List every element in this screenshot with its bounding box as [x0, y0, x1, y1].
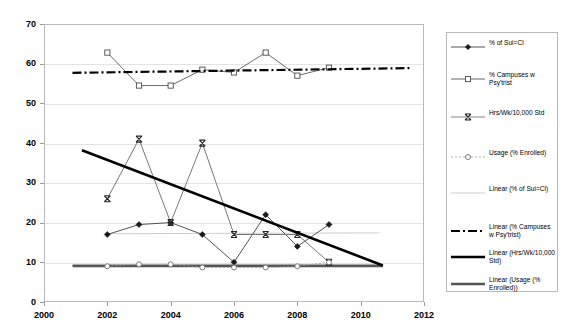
- data-point-marker: [104, 196, 110, 202]
- legend-key-dotted-open-circle-icon: [449, 149, 487, 161]
- data-point-marker: [105, 50, 110, 55]
- legend-label: Usage (% Enrolled): [487, 149, 546, 157]
- legend-item[interactable]: Usage (% Enrolled): [449, 149, 557, 161]
- legend-label: Linear (Usage (% Enrolled)): [487, 276, 557, 291]
- series-0: [104, 212, 332, 266]
- legend-key-thin-solid-icon: [449, 185, 487, 197]
- chart-legend: % of Sui=Cl% Campuses w Psy'tristHrs/Wk/…: [446, 32, 558, 292]
- legend-item[interactable]: % Campuses w Psy'trist: [449, 71, 557, 86]
- legend-label: Linear (% Campuses w Psy'trist): [487, 223, 557, 238]
- data-point-marker: [326, 222, 332, 228]
- data-point-marker: [168, 262, 173, 267]
- legend-label: % of Sui=Cl: [487, 39, 524, 47]
- legend-marker: [465, 44, 471, 50]
- data-point-marker: [200, 265, 205, 270]
- data-point-marker: [136, 136, 142, 142]
- trendline-segment: [107, 233, 379, 234]
- data-point-marker: [136, 222, 142, 228]
- legend-label: % Campuses w Psy'trist: [487, 71, 557, 86]
- data-point-marker: [263, 50, 268, 55]
- legend-item[interactable]: Linear (% Campuses w Psy'trist): [449, 223, 557, 238]
- legend-marker: [465, 76, 470, 81]
- trendline-thick-solid: [82, 150, 383, 265]
- legend-key-line-filled-diamond-icon: [449, 39, 487, 51]
- legend-key-line-x-cross-icon: [449, 109, 487, 121]
- trendline-thin-solid: [107, 233, 379, 234]
- legend-item[interactable]: % of Sui=Cl: [449, 39, 557, 51]
- data-point-marker: [199, 140, 205, 146]
- legend-item[interactable]: Linear (Hrs/Wk/10,000 Std): [449, 249, 557, 264]
- data-point-marker: [327, 260, 332, 265]
- data-point-marker: [295, 264, 300, 269]
- data-point-marker: [136, 83, 141, 88]
- trendline-segment: [82, 150, 383, 265]
- legend-item[interactable]: Linear (Usage (% Enrolled)): [449, 276, 557, 291]
- legend-marker: [466, 155, 471, 160]
- legend-key-thick-solid-black-icon: [449, 249, 487, 261]
- legend-label: Linear (Hrs/Wk/10,000 Std): [487, 249, 557, 264]
- data-point-marker: [295, 73, 300, 78]
- data-point-marker: [105, 264, 110, 269]
- data-point-marker: [232, 265, 237, 270]
- legend-key-line-open-square-icon: [449, 71, 487, 83]
- legend-key-thick-solid-gray-icon: [449, 276, 487, 288]
- legend-key-dash-dot-icon: [449, 223, 487, 235]
- legend-label: Linear (% of Sui=Cl): [487, 185, 548, 193]
- data-point-marker: [104, 231, 110, 237]
- legend-label: Hrs/Wk/10,000 Std: [487, 109, 544, 117]
- data-point-marker: [168, 83, 173, 88]
- series-line: [107, 215, 329, 263]
- chart-root: 010203040506070 200020022004200620082010…: [0, 0, 566, 331]
- legend-item[interactable]: Linear (% of Sui=Cl): [449, 185, 557, 197]
- series-line: [107, 139, 329, 262]
- data-point-marker: [137, 262, 142, 267]
- data-point-marker: [263, 265, 268, 270]
- legend-item[interactable]: Hrs/Wk/10,000 Std: [449, 109, 557, 121]
